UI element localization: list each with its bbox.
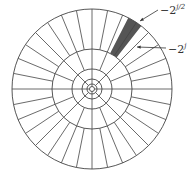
label-exp: j <box>184 42 186 50</box>
highlighted-wedge <box>110 18 141 58</box>
label-exp: j/2 <box>176 3 185 11</box>
polar-tiling-diagram <box>0 0 192 179</box>
label-2j: −2j <box>168 42 186 56</box>
label-base: −2 <box>168 43 184 56</box>
label-2j2: −2j/2 <box>160 3 185 17</box>
label-base: −2 <box>160 4 176 17</box>
